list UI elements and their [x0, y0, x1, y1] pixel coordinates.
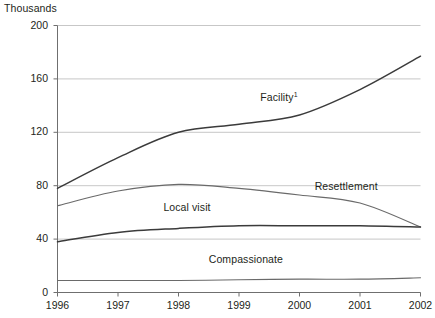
- x-axis-tick-label: 1996: [36, 299, 80, 311]
- plot-area: [0, 0, 435, 318]
- x-axis-tick-label: 2001: [338, 299, 382, 311]
- y-axis-tick-label: 80: [14, 179, 48, 191]
- y-axis-tick-label: 40: [14, 232, 48, 244]
- line-chart: Thousands 04080120160200 199619971998199…: [0, 0, 435, 318]
- series-line-compassionate: [58, 278, 421, 281]
- series-label-local-visit: Local visit: [163, 201, 210, 213]
- series-lines: [58, 56, 421, 280]
- x-axis-tick-label: 1997: [96, 299, 140, 311]
- x-axis-tick-label: 2000: [278, 299, 322, 311]
- gridlines: [58, 26, 421, 293]
- x-axis-tick-label: 2002: [399, 299, 435, 311]
- series-label-facility: Facility1: [260, 91, 297, 103]
- x-axis-tick-label: 1999: [217, 299, 261, 311]
- y-axis-tick-label: 0: [14, 286, 48, 298]
- series-line-facility: [58, 56, 421, 188]
- x-axis-tick-label: 1998: [157, 299, 201, 311]
- y-axis-tick-label: 200: [14, 19, 48, 31]
- series-label-compassionate: Compassionate: [209, 253, 283, 265]
- footnote-marker: 1: [294, 90, 298, 97]
- series-label-resettlement: Resettlement: [315, 180, 378, 192]
- y-axis-tick-label: 160: [14, 72, 48, 84]
- y-axis-tick-label: 120: [14, 125, 48, 137]
